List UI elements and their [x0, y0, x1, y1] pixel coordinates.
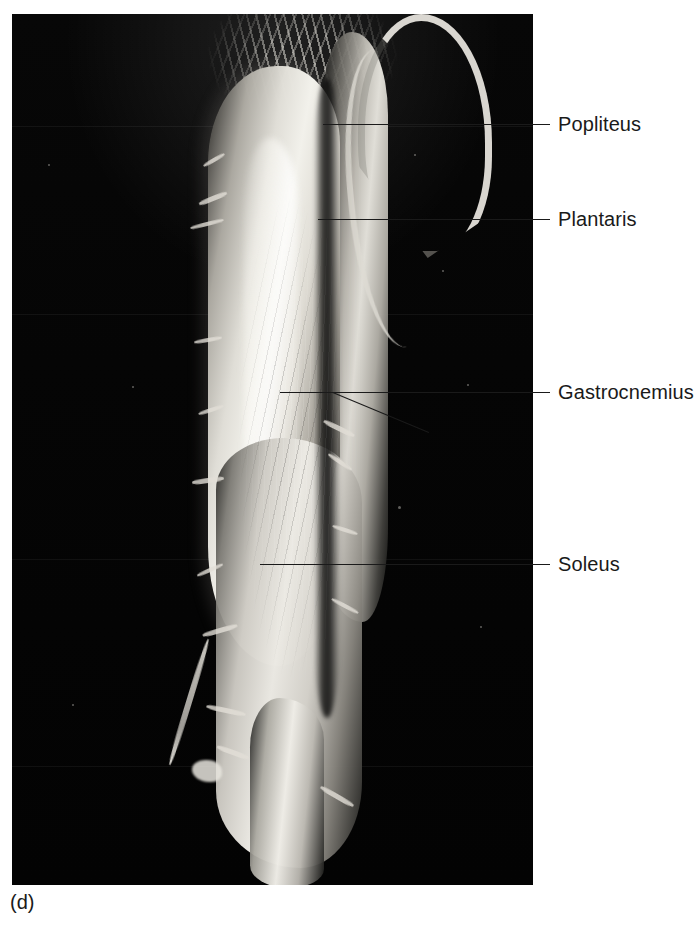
figure-root: Popliteus Plantaris Gastrocnemius Soleus… [0, 0, 698, 925]
callout-label-gastrocnemius: Gastrocnemius [558, 381, 694, 403]
dissected-limb-specimen [172, 14, 422, 885]
dust-speck [467, 384, 469, 386]
dust-speck [48, 164, 50, 166]
leader-line-gastrocnemius [280, 392, 550, 393]
leader-line-plantaris [318, 219, 550, 220]
callout-label-soleus: Soleus [558, 553, 620, 575]
anatomy-photograph [12, 14, 533, 885]
dust-speck [132, 386, 134, 388]
callout-label-popliteus: Popliteus [558, 113, 641, 135]
leader-line-popliteus [323, 124, 550, 125]
figure-caption: (d) [10, 890, 34, 914]
muscle-striations-diagonal [218, 128, 368, 748]
dust-speck [480, 626, 482, 628]
dust-speck [72, 704, 74, 706]
leader-line-soleus [260, 564, 550, 565]
callout-label-plantaris: Plantaris [558, 208, 637, 230]
